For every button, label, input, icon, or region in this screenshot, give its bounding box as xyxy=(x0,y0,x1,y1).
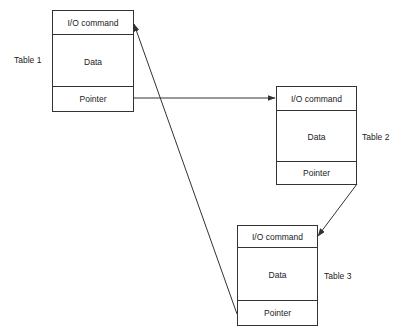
table-1-box: I/O command Data Pointer xyxy=(52,10,134,112)
table-3-data: Data xyxy=(238,248,317,302)
arrow-table2-to-table3 xyxy=(318,184,357,236)
table-2-label: Table 2 xyxy=(362,132,389,142)
table-2-box: I/O command Data Pointer xyxy=(276,86,357,185)
table-1-io-command: I/O command xyxy=(53,11,133,35)
table-1-data: Data xyxy=(53,35,133,88)
table-3-label: Table 3 xyxy=(324,271,351,281)
table-3-pointer: Pointer xyxy=(238,300,317,325)
table-3-io-command: I/O command xyxy=(238,226,317,248)
table-3-box: I/O command Data Pointer xyxy=(237,225,318,326)
table-2-io-command: I/O command xyxy=(277,87,356,111)
table-2-pointer: Pointer xyxy=(277,161,356,184)
table-1-label: Table 1 xyxy=(14,55,41,65)
table-1-pointer: Pointer xyxy=(53,86,133,111)
table-2-data: Data xyxy=(277,111,356,163)
arrow-table3-to-table1 xyxy=(134,24,237,314)
